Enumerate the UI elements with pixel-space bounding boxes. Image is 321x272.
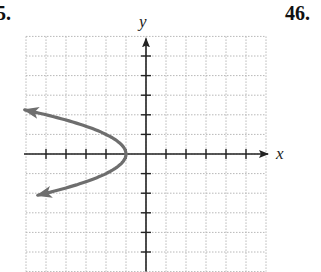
parabola-curve bbox=[25, 110, 126, 195]
x-axis-label: x bbox=[275, 144, 284, 163]
coordinate-plane: y x bbox=[0, 0, 321, 272]
y-axis-label: y bbox=[137, 12, 147, 31]
axes bbox=[24, 38, 268, 271]
